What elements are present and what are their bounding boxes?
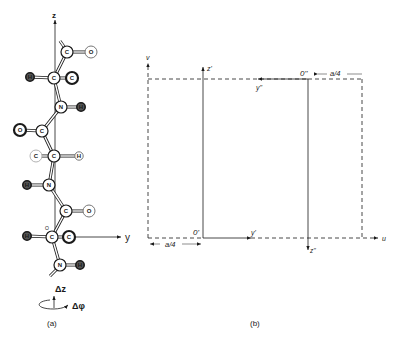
atom-o: O	[85, 46, 97, 58]
offset-left-label: a/4	[165, 240, 175, 249]
atom-symbol: C	[64, 208, 69, 214]
panel-a: z y COHCCNHOCCCHHNCOHCCNH O Δz Δφ (a)	[14, 11, 130, 328]
atom-symbol: H	[28, 74, 32, 80]
atom-symbol: H	[78, 262, 82, 268]
atom-symbol: N	[47, 182, 51, 188]
atom-c: C	[61, 46, 73, 58]
atom-c: C	[46, 231, 58, 243]
y-double-prime-label: y''	[255, 84, 263, 92]
y-prime-label: y'	[250, 229, 257, 237]
panel-b: v z' y'' 0'' a/4 z'' u y' 0' a/4 (b)	[146, 54, 386, 328]
y-axis-label: y	[125, 232, 130, 243]
atom-c: C	[60, 205, 72, 217]
o-double-prime-label: 0''	[300, 69, 308, 78]
atom-symbol: C	[65, 49, 70, 55]
atom-n: N	[55, 101, 67, 113]
atom-n: N	[54, 259, 66, 271]
atom-h: H	[26, 73, 34, 81]
offset-right-label: a/4	[330, 69, 340, 78]
atom-symbol: H	[25, 182, 29, 188]
small-o-label: O	[45, 225, 49, 231]
u-axis-label: u	[382, 235, 386, 242]
atom-h: H	[23, 181, 31, 189]
atom-o: O	[83, 205, 95, 217]
z-double-prime-label: z''	[309, 247, 316, 254]
atom-symbol: C	[52, 75, 57, 81]
atom-symbol: O	[87, 208, 92, 214]
delta-phi-label: Δφ	[72, 301, 85, 311]
atom-symbol: N	[59, 104, 63, 110]
atom-c: C	[48, 150, 60, 162]
atom-c: C	[66, 72, 78, 84]
o-prime-label: 0'	[193, 228, 199, 237]
atom-symbol: C	[40, 128, 45, 134]
atom-c: C	[48, 72, 60, 84]
z-prime-label: z'	[206, 65, 213, 72]
atom-o: O	[14, 124, 26, 136]
v-axis-label: v	[146, 54, 150, 61]
atom-h: H	[23, 232, 31, 240]
atom-symbol: C	[67, 234, 72, 240]
atom-c: C	[36, 125, 48, 137]
atom-symbol: O	[18, 127, 23, 133]
atom-n: N	[43, 179, 55, 191]
atom-symbol: C	[34, 153, 39, 159]
atom-symbol: H	[25, 233, 29, 239]
z-axis-label: z	[52, 11, 56, 20]
atom-symbol: N	[58, 262, 62, 268]
panel-b-caption: (b)	[250, 319, 260, 328]
atom-c: C	[63, 231, 75, 243]
atom-symbol: O	[89, 49, 94, 55]
delta-z-label: Δz	[55, 284, 66, 294]
atom-h: H	[77, 103, 85, 111]
atom-symbol: C	[52, 153, 57, 159]
atom-symbol: H	[79, 104, 83, 110]
atom-symbol: C	[70, 75, 75, 81]
atom-c: C	[30, 150, 42, 162]
atom-symbol: C	[50, 234, 55, 240]
atom-h: H	[75, 152, 83, 160]
atom-h: H	[76, 261, 84, 269]
panel-a-caption: (a)	[47, 319, 57, 328]
figure-canvas: z y COHCCNHOCCCHHNCOHCCNH O Δz Δφ (a) v	[0, 0, 393, 344]
atom-symbol: H	[77, 153, 81, 159]
